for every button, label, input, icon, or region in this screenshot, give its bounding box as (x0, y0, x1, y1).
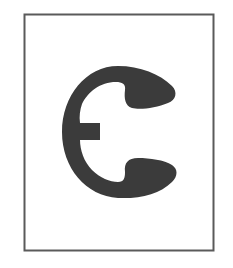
e-clip-illustration (0, 0, 233, 268)
image-frame-border (25, 15, 214, 251)
product-image: E-clip (external retaining ring) product… (0, 0, 233, 268)
